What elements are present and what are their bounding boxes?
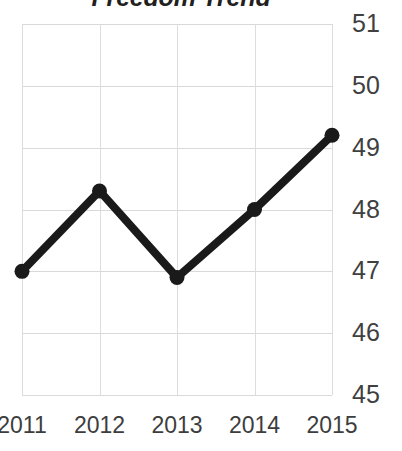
- data-point-marker: [247, 202, 262, 217]
- line-chart: Freedom Trend 51504948474645 20112012201…: [0, 0, 402, 451]
- y-axis-tick-label: 46: [352, 320, 396, 345]
- y-axis-tick-label: 50: [352, 73, 396, 98]
- x-axis-tick-label: 2015: [293, 414, 371, 437]
- y-axis-tick-label: 49: [352, 135, 396, 160]
- series-line: [22, 24, 332, 395]
- data-point-marker: [92, 183, 107, 198]
- y-axis-tick-label: 47: [352, 258, 396, 283]
- y-axis-tick-label: 48: [352, 197, 396, 222]
- gridline-vertical: [332, 24, 333, 395]
- y-axis-tick-label: 45: [352, 382, 396, 407]
- x-axis-tick-label: 2013: [138, 414, 216, 437]
- x-axis-tick-label: 2011: [0, 414, 61, 437]
- y-axis-tick-label: 51: [352, 11, 396, 36]
- x-axis-tick-label: 2012: [61, 414, 139, 437]
- data-point-marker: [325, 128, 340, 143]
- data-point-marker: [15, 264, 30, 279]
- gridline-horizontal: [22, 395, 332, 396]
- data-point-marker: [170, 270, 185, 285]
- plot-area: [22, 24, 332, 395]
- x-axis-tick-label: 2014: [216, 414, 294, 437]
- chart-title: Freedom Trend: [0, 0, 362, 12]
